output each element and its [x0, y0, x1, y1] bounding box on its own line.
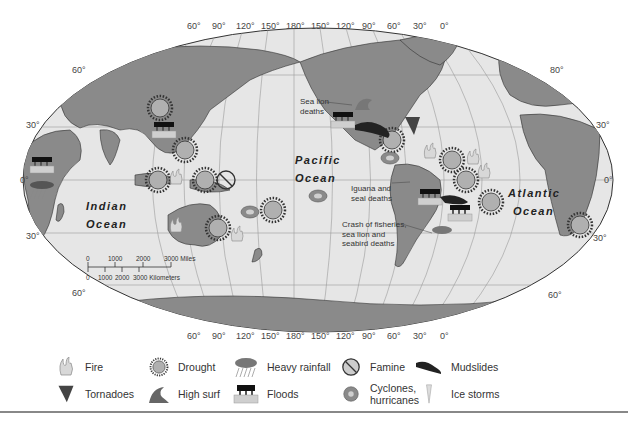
annotation-line: Iguana and [351, 184, 392, 194]
annotation-line: sea lion and [342, 230, 406, 240]
floods-icon [233, 384, 259, 404]
ocean-label-line: Atlantic [508, 184, 560, 202]
tick: 60° [187, 21, 201, 31]
pacific-ocean-label: Pacific Ocean [295, 151, 341, 187]
indian-ocean-label: Indian Ocean [86, 197, 127, 233]
iguana-seal-deaths-annotation: Iguana and seal deaths [351, 184, 392, 203]
tick: 0° [440, 331, 449, 341]
tick: 60° [187, 331, 201, 341]
tick: 120° [236, 331, 255, 341]
legend-item-floods: Floods [233, 384, 299, 404]
scale-label: 2000 [115, 274, 129, 281]
famine-icon [340, 357, 362, 377]
scale-label: 2000 [136, 255, 150, 262]
scale-label: 3000 Miles [164, 255, 195, 262]
tick: 30° [26, 231, 40, 241]
tick: 90° [362, 331, 376, 341]
legend-item-cyclones: Cyclones,hurricanes [340, 382, 419, 406]
tick: 180° [286, 21, 305, 31]
tick: 150° [311, 21, 330, 31]
legend-label: Famine [370, 361, 405, 373]
tick: 90° [362, 21, 376, 31]
tornado-icon [55, 384, 77, 404]
tick: 60° [387, 331, 401, 341]
tick: 80° [550, 65, 564, 75]
scale-label: 1000 [98, 274, 112, 281]
tick: 150° [261, 331, 280, 341]
legend: Fire Drought Heavy rainfall Famine Mudsl… [0, 355, 628, 415]
bottom-divider [0, 411, 628, 413]
legend-item-high-surf: High surf [148, 384, 220, 404]
ocean-label-line: Indian [86, 197, 127, 215]
legend-label: Ice storms [451, 388, 499, 400]
tick: 30° [413, 21, 427, 31]
annotation-line: seal deaths [351, 194, 392, 204]
legend-item-drought: Drought [148, 357, 215, 377]
legend-label-line: hurricanes [370, 394, 419, 406]
legend-label: Cyclones,hurricanes [370, 382, 419, 406]
heavy-rainfall-icon [233, 357, 259, 377]
drought-icon [148, 357, 170, 377]
cyclone-icon [340, 384, 362, 404]
fisheries-crash-annotation: Crash of fisheries, sea lion and seabird… [342, 220, 406, 249]
tick: 30° [26, 120, 40, 130]
legend-item-ice-storms: Ice storms [415, 384, 499, 404]
ice-storm-icon [415, 384, 443, 404]
heavy-rainfall-marker [432, 226, 452, 234]
legend-label: Mudslides [451, 361, 498, 373]
tick: 90° [212, 21, 226, 31]
tick: 30° [413, 331, 427, 341]
legend-label: High surf [178, 388, 220, 400]
tick: 60° [72, 65, 86, 75]
ocean-label-line: Pacific [295, 151, 341, 169]
annotation-line: deaths [300, 107, 329, 117]
tick: 0° [604, 175, 613, 185]
legend-label: Tornadoes [85, 388, 134, 400]
tick: 0° [440, 21, 449, 31]
tick: 120° [336, 21, 355, 31]
ocean-label-line: Ocean [86, 215, 127, 233]
legend-label: Fire [85, 361, 103, 373]
tick: 180° [286, 331, 305, 341]
tick: 60° [72, 288, 86, 298]
scale-label: 0 [86, 274, 90, 281]
fire-icon [55, 357, 77, 377]
scale-label: 0 [86, 255, 90, 262]
legend-item-tornadoes: Tornadoes [55, 384, 134, 404]
legend-label: Drought [178, 361, 215, 373]
annotation-line: Sea lion [300, 97, 329, 107]
atlantic-ocean-label: Atlantic Ocean [508, 184, 560, 220]
legend-item-mudslides: Mudslides [415, 357, 498, 377]
high-surf-icon [148, 384, 170, 404]
mudslides-icon [415, 357, 443, 377]
tick: 120° [236, 21, 255, 31]
annotation-line: seabird deaths [342, 239, 406, 249]
legend-item-heavy-rainfall: Heavy rainfall [233, 357, 331, 377]
tick: 30° [596, 120, 610, 130]
tick: 120° [336, 331, 355, 341]
legend-label: Floods [267, 388, 299, 400]
tick: 0° [20, 175, 29, 185]
tick: 150° [311, 331, 330, 341]
ocean-label-line: Ocean [508, 202, 560, 220]
scale-label: 1000 [108, 255, 122, 262]
tick: 90° [212, 331, 226, 341]
ocean-label-line: Ocean [295, 169, 341, 187]
sea-lion-deaths-annotation: Sea lion deaths [300, 97, 329, 116]
annotation-line: Crash of fisheries, [342, 220, 406, 230]
tick: 60° [387, 21, 401, 31]
legend-label: Heavy rainfall [267, 361, 331, 373]
legend-label-line: Cyclones, [370, 382, 416, 394]
tick: 60° [548, 290, 562, 300]
scale-label: 3000 Kilometers [133, 274, 180, 281]
legend-item-famine: Famine [340, 357, 405, 377]
tick: 150° [261, 21, 280, 31]
tick: 30° [593, 233, 607, 243]
legend-item-fire: Fire [55, 357, 103, 377]
